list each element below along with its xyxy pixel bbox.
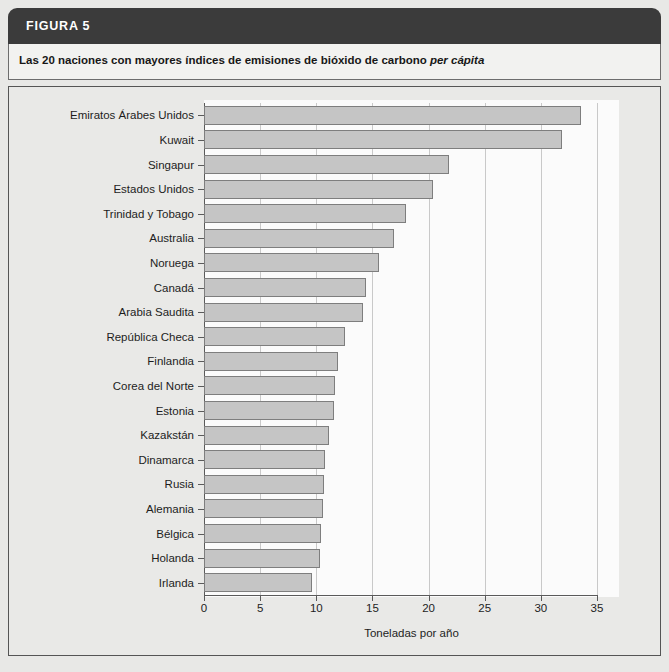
category-label: Bélgica <box>156 528 194 540</box>
x-tick-label: 20 <box>422 602 435 614</box>
category-label: Kuwait <box>159 134 194 146</box>
figure-header-band: FIGURA 5 <box>8 8 661 44</box>
x-tick-label: 5 <box>257 602 263 614</box>
y-tick-mark <box>198 165 204 166</box>
x-tick-mark <box>316 596 317 601</box>
x-tick-mark <box>597 596 598 601</box>
figure-subtitle-italic: per cápita <box>430 54 484 66</box>
figure-subtitle: Las 20 naciones con mayores índices de e… <box>19 54 484 66</box>
y-tick-mark <box>198 558 204 559</box>
category-label: Dinamarca <box>138 454 194 466</box>
bar <box>204 327 345 346</box>
figure-subtitle-band: Las 20 naciones con mayores índices de e… <box>8 44 661 80</box>
bar <box>204 204 406 223</box>
y-tick-mark <box>198 435 204 436</box>
bar <box>204 130 562 149</box>
bar <box>204 352 338 371</box>
x-tick-mark <box>429 596 430 601</box>
bar <box>204 229 394 248</box>
category-label: Alemania <box>146 503 194 515</box>
bar <box>204 426 329 445</box>
x-tick-mark <box>372 596 373 601</box>
y-tick-mark <box>198 337 204 338</box>
bar <box>204 549 320 568</box>
category-label: Estados Unidos <box>113 183 194 195</box>
y-axis-line <box>204 103 205 596</box>
y-tick-mark <box>198 288 204 289</box>
y-tick-mark <box>198 214 204 215</box>
y-tick-mark <box>198 312 204 313</box>
bar <box>204 155 449 174</box>
y-tick-mark <box>198 484 204 485</box>
category-label: Singapur <box>148 159 194 171</box>
y-tick-mark <box>198 263 204 264</box>
gridline <box>316 103 317 595</box>
y-tick-mark <box>198 509 204 510</box>
category-label: Holanda <box>151 552 194 564</box>
y-tick-mark <box>198 460 204 461</box>
category-label: Arabia Saudita <box>119 306 194 318</box>
category-label: Rusia <box>165 478 194 490</box>
y-tick-mark <box>198 386 204 387</box>
x-tick-label: 35 <box>591 602 604 614</box>
y-tick-mark <box>198 361 204 362</box>
x-tick-mark <box>204 596 205 601</box>
bar <box>204 303 363 322</box>
x-axis-title: Toneladas por año <box>9 627 662 639</box>
figure-number-label: FIGURA 5 <box>26 19 90 33</box>
gridline <box>541 103 542 595</box>
bar <box>204 278 366 297</box>
y-tick-mark <box>198 238 204 239</box>
category-label: Estonia <box>156 405 194 417</box>
plot-area: 05101520253035Emiratos Árabes UnidosKuwa… <box>9 87 662 657</box>
x-tick-label: 30 <box>534 602 547 614</box>
category-label: Emiratos Árabes Unidos <box>70 109 194 121</box>
bar <box>204 253 379 272</box>
bar <box>204 106 581 125</box>
bar <box>204 401 334 420</box>
x-tick-mark <box>485 596 486 601</box>
category-label: República Checa <box>106 331 194 343</box>
category-label: Noruega <box>150 257 194 269</box>
bar <box>204 450 325 469</box>
bar <box>204 475 324 494</box>
y-tick-mark <box>198 189 204 190</box>
y-tick-mark <box>198 140 204 141</box>
gridline <box>260 103 261 595</box>
category-label: Kazakstán <box>140 429 194 441</box>
x-axis-line <box>204 595 598 596</box>
bar <box>204 524 321 543</box>
bar <box>204 376 335 395</box>
y-tick-mark <box>198 115 204 116</box>
gridline <box>485 103 486 595</box>
bar <box>204 180 433 199</box>
gridline <box>429 103 430 595</box>
gridline <box>597 103 598 595</box>
x-tick-label: 25 <box>478 602 491 614</box>
figure-page: FIGURA 5 Las 20 naciones con mayores índ… <box>0 0 669 672</box>
bar <box>204 499 323 518</box>
y-tick-mark <box>198 583 204 584</box>
chart-frame: 05101520253035Emiratos Árabes UnidosKuwa… <box>8 86 661 656</box>
category-label: Irlanda <box>159 577 194 589</box>
category-label: Finlandia <box>147 355 194 367</box>
category-label: Australia <box>149 232 194 244</box>
x-tick-mark <box>541 596 542 601</box>
x-tick-label: 10 <box>310 602 323 614</box>
figure-subtitle-main: Las 20 naciones con mayores índices de e… <box>19 54 430 66</box>
y-tick-mark <box>198 411 204 412</box>
category-label: Trinidad y Tobago <box>103 208 194 220</box>
category-label: Corea del Norte <box>113 380 194 392</box>
y-tick-mark <box>198 534 204 535</box>
x-tick-mark <box>260 596 261 601</box>
x-tick-label: 15 <box>366 602 379 614</box>
x-tick-label: 0 <box>201 602 207 614</box>
gridline <box>372 103 373 595</box>
category-label: Canadá <box>154 282 194 294</box>
bar <box>204 573 312 592</box>
